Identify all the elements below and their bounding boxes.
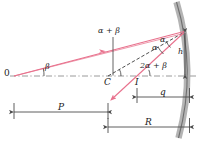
diagram-canvas (0, 0, 205, 141)
label-dimension-q: q (160, 88, 166, 97)
label-angle-alpha-plus-beta: α + β (98, 27, 120, 35)
angle-alpha-beta-arc (120, 70, 122, 77)
label-angle-alpha-1: α (160, 36, 165, 44)
angle-2alpha-beta-arc (149, 70, 150, 76)
label-dimension-r: R (145, 118, 152, 127)
mirror-ray-diagram: 0 β α + β α α h 2α + β C I q P R (0, 0, 205, 141)
label-object-point: 0 (4, 69, 10, 78)
label-dimension-p: P (58, 103, 64, 112)
angle-beta-arc (43, 69, 44, 77)
label-angle-alpha-2: α (152, 44, 157, 52)
angle-alpha-2-arc (158, 47, 164, 54)
label-height-h: h (178, 48, 183, 56)
label-center-of-curvature: C (104, 78, 111, 87)
label-angle-2alpha-plus-beta: 2α + β (140, 62, 167, 70)
label-angle-beta: β (45, 63, 50, 71)
label-image-point: I (135, 78, 139, 87)
